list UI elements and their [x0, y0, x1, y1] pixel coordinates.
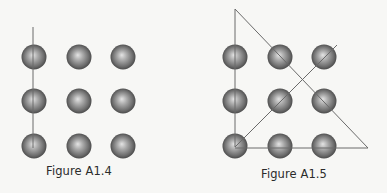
figure-a1-4 — [22, 27, 136, 159]
sphere-r1-c2 — [67, 45, 92, 70]
figure-a1-5 — [223, 9, 369, 159]
sphere-r3-c3 — [111, 134, 136, 159]
sphere-grid — [22, 45, 136, 159]
sphere-r2-c1 — [22, 89, 47, 114]
solution-lines — [235, 9, 368, 148]
sphere-r1-c3 — [111, 45, 136, 70]
sphere-r3-c3 — [312, 134, 337, 159]
sphere-r3-c2 — [67, 134, 92, 159]
sphere-r3-c2 — [268, 134, 293, 159]
sphere-grid — [223, 45, 337, 159]
sphere-r3-c1 — [22, 134, 47, 159]
sphere-r2-c3 — [111, 89, 136, 114]
figure-caption-a1-5: Figure A1.5 — [261, 167, 327, 181]
sphere-r2-c2 — [268, 89, 293, 114]
figure-caption-a1-4: Figure A1.4 — [46, 164, 112, 178]
sphere-r1-c3 — [312, 45, 337, 70]
sphere-r1-c1 — [22, 45, 47, 70]
sphere-r2-c2 — [67, 89, 92, 114]
